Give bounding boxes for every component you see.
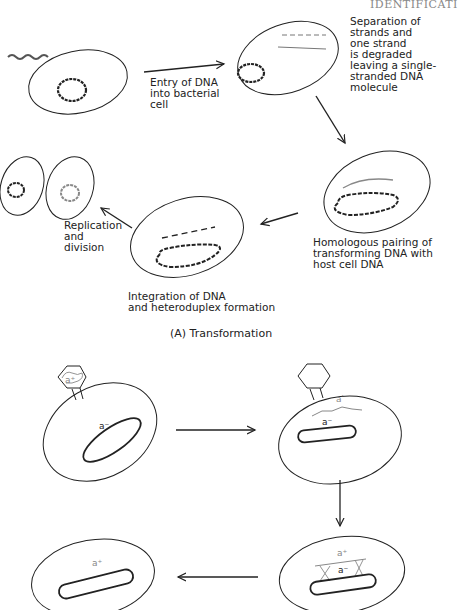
phage-tail-2a [310,389,314,400]
displaced-strand [162,227,215,238]
daughter-cell-1 [0,151,51,221]
label-separation: Separation of strands and one strand is … [350,16,436,93]
caption-transformation: (A) Transformation [170,327,272,340]
heteroduplex-chromosome [157,244,220,267]
cell-b1 [26,363,175,501]
label-pairing: Homologous pairing of transforming DNA w… [313,237,433,270]
host-chromosome-b4 [57,568,134,600]
transforming-strand [343,179,393,188]
cell-b4 [25,530,160,610]
daughter-cell-2 [38,150,102,225]
svg-text:a⁺: a⁺ [92,558,103,568]
chromosome-1 [58,79,86,101]
single-strand [278,47,326,49]
label-entry: Entry of DNA into bacterial cell [150,77,220,110]
chromosome-2 [238,64,264,82]
cell-2 [228,8,349,107]
phage-tail-1b [80,388,83,399]
svg-text:a⁺: a⁺ [65,375,76,385]
injected-dna [312,407,362,416]
daughter-chromosome-2 [61,185,79,201]
cell-1 [23,41,134,122]
svg-text:a′: a′ [336,394,344,404]
host-chromosome-b3 [309,573,376,595]
svg-text:a⁻: a⁻ [338,565,349,575]
host-chromosome-b2 [298,425,357,443]
svg-text:a⁻: a⁻ [99,421,110,431]
svg-text:a⁻: a⁻ [322,417,333,427]
label-replication: Replication and division [64,220,122,253]
arrow-separation [316,96,345,143]
phage-tail-2b [320,388,323,398]
cell-4 [120,183,254,291]
phage-head-2 [298,364,330,388]
arrow-entry [144,64,224,72]
host-chromosome-3 [335,193,398,215]
cell-3 [312,136,438,248]
arrow-pairing [261,213,298,224]
free-dna-helix [8,55,48,59]
label-integration: Integration of DNA and heteroduplex form… [128,291,275,313]
svg-text:a⁺: a⁺ [337,548,348,558]
daughter-chromosome-1 [8,183,24,197]
